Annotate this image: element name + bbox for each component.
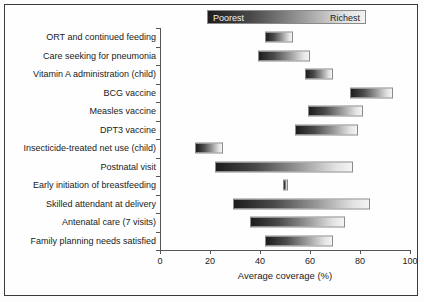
legend-label-richest: Richest xyxy=(330,12,360,24)
equity-range-bar xyxy=(265,32,293,43)
equity-range-bar xyxy=(265,235,333,246)
x-axis-tick-label: 40 xyxy=(255,256,265,266)
chart-screenshot: Poorest Richest ORT and continued feedin… xyxy=(0,0,424,302)
y-axis-tick xyxy=(156,213,161,214)
y-axis-tick xyxy=(156,65,161,66)
equity-range-bar xyxy=(233,198,371,209)
equity-range-bar xyxy=(305,69,333,80)
x-axis-title: Average coverage (%) xyxy=(160,270,410,281)
y-axis-tick xyxy=(156,84,161,85)
category-label: Vitamin A administration (child) xyxy=(33,69,156,79)
legend-label-poorest: Poorest xyxy=(213,12,244,24)
category-label: Insecticide-treated net use (child) xyxy=(23,143,156,153)
category-label: BCG vaccine xyxy=(103,88,156,98)
category-label: Care seeking for pneumonia xyxy=(43,51,156,61)
plot-area: Poorest Richest ORT and continued feedin… xyxy=(0,0,424,302)
category-label: Postnatal visit xyxy=(100,162,156,172)
wealth-quintile-legend: Poorest Richest xyxy=(207,10,366,24)
x-axis-tick-label: 100 xyxy=(402,256,417,266)
category-label: ORT and continued feeding xyxy=(46,32,156,42)
x-axis-tick xyxy=(360,250,361,254)
y-axis-tick xyxy=(156,158,161,159)
x-axis-tick xyxy=(310,250,311,254)
y-axis-tick xyxy=(156,121,161,122)
equity-range-bar xyxy=(295,124,358,135)
y-axis-tick xyxy=(156,232,161,233)
equity-range-bar xyxy=(215,161,353,172)
x-axis-tick xyxy=(210,250,211,254)
equity-range-bar xyxy=(250,217,345,228)
y-axis-tick xyxy=(156,195,161,196)
category-label: DPT3 vaccine xyxy=(100,125,156,135)
category-label: Family planning needs satisfied xyxy=(30,236,156,246)
category-label: Skilled attendant at delivery xyxy=(46,199,156,209)
equity-range-bar xyxy=(308,106,363,117)
equity-range-bar xyxy=(258,50,311,61)
category-label: Early initiation of breastfeeding xyxy=(33,180,156,190)
equity-range-bar xyxy=(283,180,288,191)
y-axis-tick xyxy=(156,47,161,48)
x-axis-tick-label: 60 xyxy=(305,256,315,266)
category-label: Antenatal care (7 visits) xyxy=(62,217,156,227)
x-axis-tick-label: 80 xyxy=(355,256,365,266)
category-label: Measles vaccine xyxy=(89,106,156,116)
equity-range-bar xyxy=(350,87,393,98)
x-axis-tick-label: 20 xyxy=(205,256,215,266)
y-axis-tick xyxy=(156,102,161,103)
x-axis-tick-label: 0 xyxy=(157,256,162,266)
equity-range-bar xyxy=(195,143,223,154)
y-axis-tick xyxy=(156,176,161,177)
x-axis-tick xyxy=(410,250,411,254)
x-axis-line xyxy=(160,250,410,251)
x-axis-tick xyxy=(260,250,261,254)
y-axis-tick xyxy=(156,139,161,140)
x-axis-tick xyxy=(160,250,161,254)
y-axis-tick xyxy=(156,28,161,29)
